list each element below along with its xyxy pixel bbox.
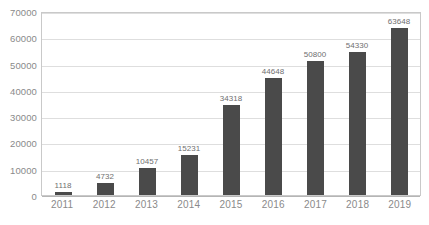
bar-value-label: 44648 <box>262 67 285 76</box>
bar[interactable]: 44648 <box>265 78 282 195</box>
y-axis-tick-label: 0 <box>32 191 37 202</box>
bars-container: 1118473210457152313431844648508005433063… <box>42 13 420 195</box>
bar-value-label: 54330 <box>346 41 369 50</box>
x-axis-tick-label: 2013 <box>125 199 167 210</box>
y-axis-tick-label: 70000 <box>10 7 37 18</box>
bar-value-label: 63648 <box>388 17 411 26</box>
plot-area: 1118473210457152313431844648508005433063… <box>41 12 421 196</box>
x-axis-tick-label: 2016 <box>252 199 294 210</box>
x-axis-tick-label: 2018 <box>337 199 379 210</box>
y-axis-tick-label: 60000 <box>10 33 37 44</box>
y-axis-tick-label: 30000 <box>10 112 37 123</box>
y-axis: 700006000050000400003000020000100000 <box>0 12 37 196</box>
bar-value-label: 10457 <box>136 157 159 166</box>
y-axis-tick-label: 40000 <box>10 85 37 96</box>
x-axis: 201120122013201420152016201720182019 <box>41 199 421 210</box>
bar[interactable]: 54330 <box>349 52 366 195</box>
x-axis-tick-label: 2015 <box>210 199 252 210</box>
axis-baseline <box>42 196 420 197</box>
bar-group: 34318 <box>210 13 252 195</box>
bar-group: 63648 <box>378 13 420 195</box>
y-axis-tick-label: 20000 <box>10 138 37 149</box>
bar[interactable]: 4732 <box>97 183 114 195</box>
bar-group: 1118 <box>42 13 84 195</box>
bar-group: 54330 <box>336 13 378 195</box>
bar-group: 4732 <box>84 13 126 195</box>
bar-group: 15231 <box>168 13 210 195</box>
bar[interactable]: 34318 <box>223 105 240 195</box>
bar-value-label: 50800 <box>304 50 327 59</box>
bar-group: 44648 <box>252 13 294 195</box>
x-axis-tick-label: 2017 <box>294 199 336 210</box>
bar-value-label: 15231 <box>178 144 201 153</box>
bar-chart: 700006000050000400003000020000100000 111… <box>0 0 429 225</box>
bar[interactable]: 50800 <box>307 61 324 195</box>
bar-value-label: 4732 <box>96 172 114 181</box>
bar[interactable]: 1118 <box>55 192 72 195</box>
x-axis-tick-label: 2012 <box>83 199 125 210</box>
bar[interactable]: 10457 <box>139 168 156 195</box>
bar-group: 10457 <box>126 13 168 195</box>
y-axis-tick-label: 50000 <box>10 59 37 70</box>
bar-value-label: 1118 <box>54 181 71 190</box>
y-axis-tick-label: 10000 <box>10 164 37 175</box>
x-axis-tick-label: 2014 <box>168 199 210 210</box>
bar[interactable]: 63648 <box>391 28 408 195</box>
bar-value-label: 34318 <box>220 94 243 103</box>
bar[interactable]: 15231 <box>181 155 198 195</box>
x-axis-tick-label: 2011 <box>41 199 83 210</box>
bar-group: 50800 <box>294 13 336 195</box>
x-axis-tick-label: 2019 <box>379 199 421 210</box>
